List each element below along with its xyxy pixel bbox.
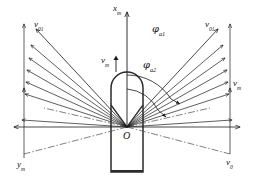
label-axis-ym: ym	[17, 160, 25, 171]
velocity-vector-center	[114, 56, 119, 73]
label-velocity-vm-center: vm	[101, 56, 109, 67]
label-velocity-v0: v0	[226, 158, 233, 169]
label-angle-phi-a1: φa1	[152, 24, 165, 36]
label-origin: O	[123, 131, 130, 141]
label-angle-phi-a2: φa2	[143, 60, 156, 72]
label-axis-xm: xm	[113, 4, 121, 15]
figure-canvas: xm ym vm vm v01 v01 v0 O φa1 φa2	[0, 0, 254, 181]
label-velocity-v01-right: v01	[205, 20, 215, 31]
label-velocity-v01-left: v01	[34, 20, 44, 31]
label-velocity-vm-right: vm	[233, 79, 241, 90]
